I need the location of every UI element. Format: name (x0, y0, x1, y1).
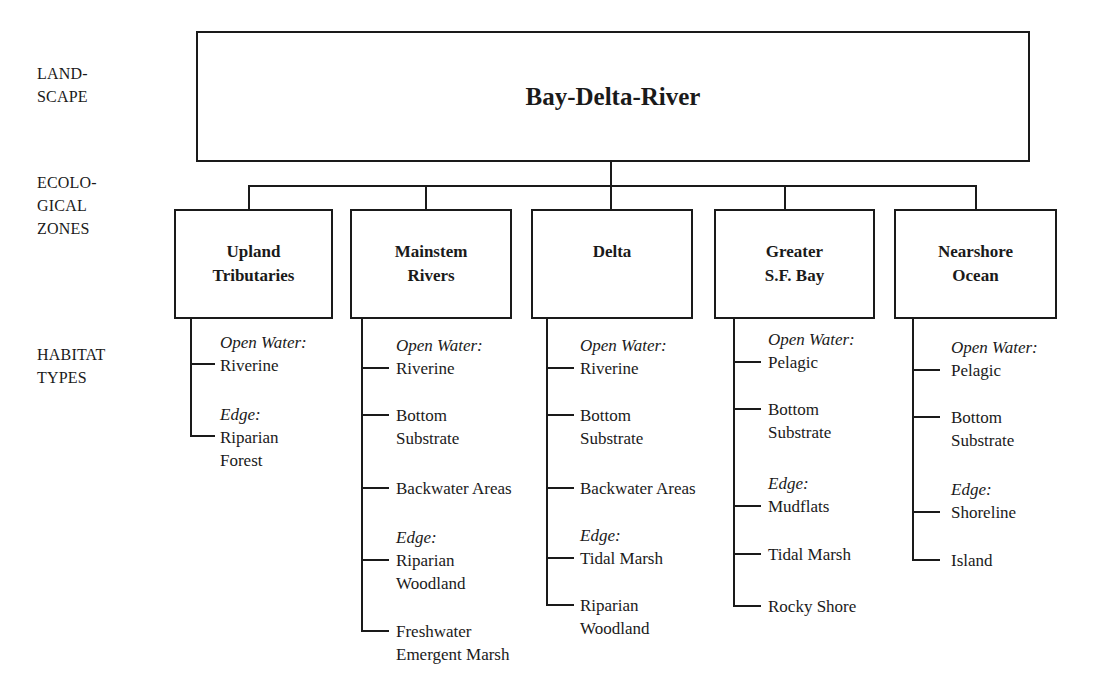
habitat-tree-trunk-mainstem (361, 318, 363, 631)
habitat-item: Open Water: Pelagic (768, 328, 855, 374)
habitat-name: Island (951, 549, 993, 572)
habitat-name: Substrate (580, 427, 643, 450)
habitat-name: Bottom (768, 398, 831, 421)
habitat-item: Edge: Tidal Marsh (580, 524, 663, 570)
habitat-tick (733, 505, 761, 507)
zone-title-line: Ocean (938, 264, 1013, 288)
connector-drop-delta (610, 185, 612, 210)
habitat-item: Open Water: Pelagic (951, 336, 1038, 382)
row-label-line: ECOLO- (37, 171, 97, 194)
habitat-name: Riparian (220, 426, 279, 449)
habitat-name: Bottom (580, 404, 643, 427)
habitat-name: Riverine (220, 354, 307, 377)
habitat-name: Bottom (951, 406, 1014, 429)
habitat-name: Riparian (580, 594, 649, 617)
zone-title-line: Upland (213, 240, 295, 264)
habitat-name: Woodland (580, 617, 649, 640)
habitat-name: Pelagic (768, 351, 855, 374)
landscape-box: Bay-Delta-River (196, 31, 1030, 162)
habitat-tick (361, 487, 389, 489)
habitat-tick (190, 435, 215, 437)
zone-title: Mainstem Rivers (395, 240, 468, 288)
habitat-tick (733, 553, 761, 555)
habitat-name: Substrate (768, 421, 831, 444)
zone-title-line: S.F. Bay (765, 264, 824, 288)
habitat-category: Open Water: (580, 334, 667, 357)
habitat-tick (361, 559, 389, 561)
row-label-ecological-zones: ECOLO- GICAL ZONES (37, 171, 97, 240)
row-label-line: ZONES (37, 217, 97, 240)
habitat-tick (546, 487, 574, 489)
habitat-item: Rocky Shore (768, 595, 856, 618)
habitat-tick (361, 367, 389, 369)
zone-title: Nearshore Ocean (938, 240, 1013, 288)
row-label-line: GICAL (37, 194, 97, 217)
row-label-line: HABITAT (37, 343, 106, 366)
connector-drop-upland (248, 185, 250, 210)
connector-drop-nearshore (975, 185, 977, 210)
habitat-name: Emergent Marsh (396, 643, 509, 666)
habitat-item: Bottom Substrate (951, 406, 1014, 452)
habitat-item: Backwater Areas (396, 477, 512, 500)
connector-bus (248, 185, 977, 187)
zone-box-greater-sf-bay: Greater S.F. Bay (714, 209, 875, 319)
habitat-item: Tidal Marsh (768, 543, 851, 566)
habitat-item: Open Water: Riverine (220, 331, 307, 377)
row-label-line: SCAPE (37, 85, 88, 108)
habitat-name: Backwater Areas (396, 477, 512, 500)
habitat-tick (546, 367, 574, 369)
habitat-tick (733, 361, 761, 363)
habitat-category: Open Water: (768, 328, 855, 351)
zone-box-mainstem-rivers: Mainstem Rivers (350, 209, 512, 319)
habitat-tick (546, 414, 574, 416)
habitat-name: Tidal Marsh (768, 543, 851, 566)
habitat-item: Backwater Areas (580, 477, 696, 500)
habitat-category: Edge: (580, 524, 663, 547)
zone-title-line: Rivers (395, 264, 468, 288)
habitat-item: Bottom Substrate (396, 404, 459, 450)
habitat-item: Edge: Riparian Forest (220, 403, 279, 472)
habitat-tree-trunk-upland (190, 318, 192, 437)
habitat-name: Riverine (396, 357, 483, 380)
row-label-line: LAND- (37, 62, 88, 85)
zone-title: Delta (593, 240, 632, 264)
zone-box-delta: Delta (531, 209, 693, 319)
connector-drop-greater (784, 185, 786, 210)
habitat-name: Substrate (396, 427, 459, 450)
habitat-item: Open Water: Riverine (580, 334, 667, 380)
habitat-tick (361, 414, 389, 416)
landscape-title: Bay-Delta-River (526, 83, 701, 111)
habitat-item: Edge: Riparian Woodland (396, 526, 465, 595)
habitat-item: Edge: Mudflats (768, 472, 829, 518)
habitat-category: Open Water: (951, 336, 1038, 359)
connector-drop-mainstem (425, 185, 427, 210)
habitat-name: Shoreline (951, 501, 1016, 524)
habitat-tree-trunk-delta (546, 318, 548, 605)
zone-box-upland-tributaries: Upland Tributaries (174, 209, 333, 319)
habitat-tick (190, 363, 215, 365)
habitat-tick (361, 630, 389, 632)
habitat-item: Bottom Substrate (768, 398, 831, 444)
zone-title-line: Tributaries (213, 264, 295, 288)
habitat-name: Bottom (396, 404, 459, 427)
habitat-name: Rocky Shore (768, 595, 856, 618)
habitat-category: Edge: (220, 403, 279, 426)
row-label-habitat-types: HABITAT TYPES (37, 343, 106, 389)
habitat-item: Island (951, 549, 993, 572)
zone-title-line: Greater (765, 240, 824, 264)
habitat-name: Freshwater (396, 620, 509, 643)
zone-title: Upland Tributaries (213, 240, 295, 288)
habitat-name: Riverine (580, 357, 667, 380)
habitat-name: Mudflats (768, 495, 829, 518)
habitat-item: Edge: Shoreline (951, 478, 1016, 524)
zone-title-line: Nearshore (938, 240, 1013, 264)
habitat-category: Edge: (396, 526, 465, 549)
habitat-name: Substrate (951, 429, 1014, 452)
habitat-category: Open Water: (220, 331, 307, 354)
row-label-line: TYPES (37, 366, 106, 389)
habitat-category: Edge: (951, 478, 1016, 501)
habitat-category: Edge: (768, 472, 829, 495)
habitat-tree-trunk-nearshore (912, 318, 914, 561)
habitat-tick (912, 416, 940, 418)
habitat-tick (546, 557, 574, 559)
